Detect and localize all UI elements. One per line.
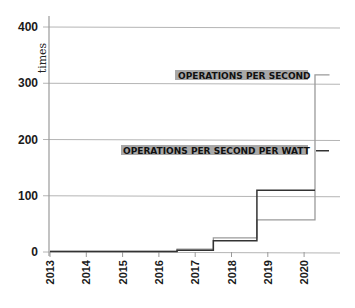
x-tick-label: 2013 xyxy=(44,260,56,284)
x-tick-label: 2017 xyxy=(189,260,201,284)
label-ops-watt: OPERATIONS PER SECOND PER WATT xyxy=(121,145,311,156)
gridline-100 xyxy=(43,196,340,197)
x-tick-label: 2020 xyxy=(298,260,310,284)
y-axis-label: times xyxy=(36,42,49,73)
gridlines xyxy=(43,27,340,253)
chart: 0100200300400 20132014201520162017201820… xyxy=(0,0,355,308)
gridline-400 xyxy=(43,27,340,28)
x-tick-label: 2015 xyxy=(117,260,129,284)
y-tick-label: 200 xyxy=(18,133,38,147)
series-lines xyxy=(50,75,330,252)
x-tick-label: 2016 xyxy=(153,260,165,284)
y-tick-label: 100 xyxy=(18,189,38,203)
label-ops-text: OPERATIONS PER SECOND xyxy=(178,71,311,81)
y-tick-label: 0 xyxy=(31,245,38,259)
y-tick-label: 300 xyxy=(18,76,38,90)
series-line-0 xyxy=(50,75,330,252)
gridline-200 xyxy=(43,140,340,141)
x-tick-label: 2018 xyxy=(226,260,238,284)
label-ops-watt-text: OPERATIONS PER SECOND PER WATT xyxy=(123,146,311,156)
x-tick-label: 2014 xyxy=(80,259,92,284)
x-tick-label: 2019 xyxy=(262,260,274,284)
label-ops: OPERATIONS PER SECOND xyxy=(175,70,311,81)
y-tick-label: 400 xyxy=(18,20,38,34)
series-line-1 xyxy=(50,190,315,251)
gridline-300 xyxy=(43,83,340,84)
x-axis-ticks: 20132014201520162017201820192020 xyxy=(44,252,310,284)
